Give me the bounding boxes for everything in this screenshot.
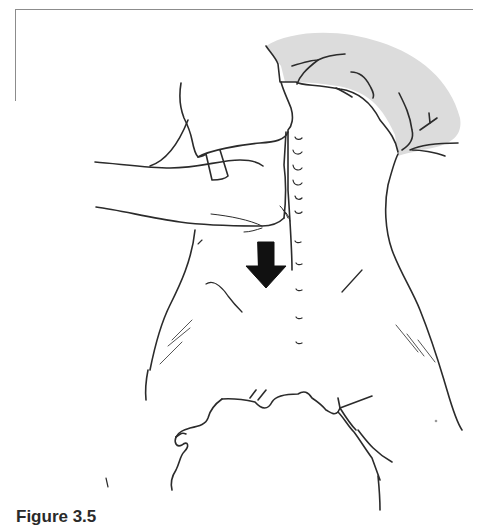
left-hatching	[160, 320, 192, 364]
forearm-upper	[95, 160, 263, 168]
right-body-outline	[386, 154, 462, 430]
hand-right-edge	[284, 132, 286, 218]
neck-outline	[281, 82, 292, 270]
spine-marks	[293, 137, 302, 344]
left-body-outline	[150, 230, 195, 370]
lower-head-outline	[222, 392, 340, 414]
figure-caption-label: Figure 3.5	[16, 507, 96, 526]
down-arrow-icon	[246, 242, 286, 288]
figure-caption: Figure 3.5	[16, 507, 96, 527]
sleeve-outline	[180, 83, 288, 157]
right-hatching	[396, 325, 435, 362]
